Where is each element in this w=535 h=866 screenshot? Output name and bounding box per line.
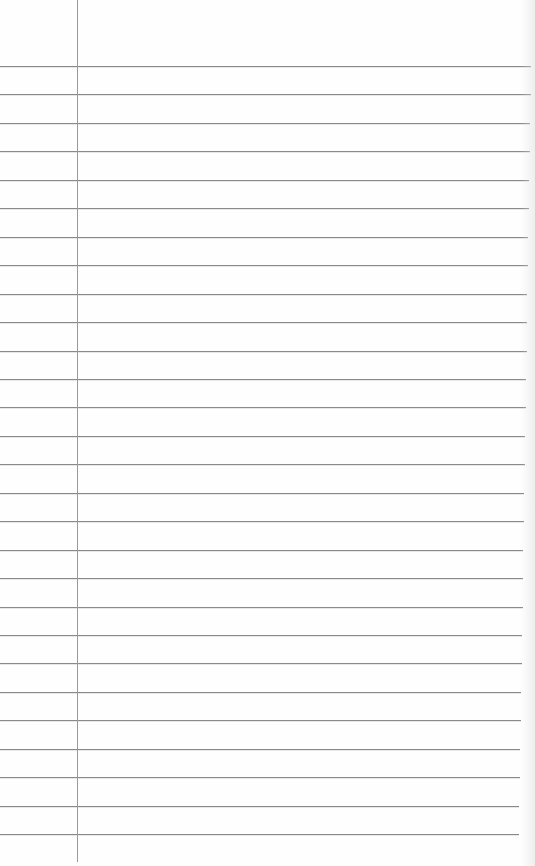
ruled-line xyxy=(0,493,524,494)
ruled-line xyxy=(0,464,525,465)
ruled-line xyxy=(0,436,525,437)
ruled-line xyxy=(0,635,522,636)
ruled-line xyxy=(0,151,530,152)
margin-line xyxy=(77,0,78,862)
ruled-paper-sheet xyxy=(0,0,535,866)
page-edge-shadow xyxy=(521,0,535,866)
ruled-line xyxy=(0,663,522,664)
ruled-line xyxy=(0,294,527,295)
ruled-line xyxy=(0,379,526,380)
ruled-line xyxy=(0,66,531,67)
ruled-line xyxy=(0,265,528,266)
ruled-line xyxy=(0,521,524,522)
ruled-line xyxy=(0,578,523,579)
ruled-line xyxy=(0,208,529,209)
ruled-line xyxy=(0,123,530,124)
ruled-line xyxy=(0,237,528,238)
ruled-line xyxy=(0,550,523,551)
ruled-line xyxy=(0,720,521,721)
ruled-line xyxy=(0,692,521,693)
ruled-line xyxy=(0,777,520,778)
ruled-line xyxy=(0,322,527,323)
ruled-line xyxy=(0,407,526,408)
ruled-line xyxy=(0,607,523,608)
ruled-line xyxy=(0,94,531,95)
ruled-line xyxy=(0,749,520,750)
ruled-line xyxy=(0,180,529,181)
ruled-line xyxy=(0,351,527,352)
